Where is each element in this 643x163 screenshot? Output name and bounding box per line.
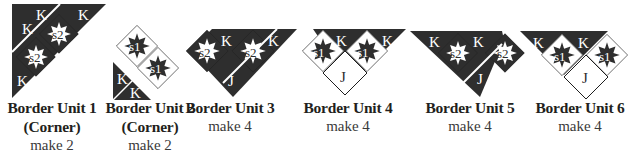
- border-unit-3-caption: Border Unit 3 make 4: [180, 98, 280, 135]
- border-unit-5-diagram: K K s2 s2 J: [410, 0, 530, 100]
- piece-label-K: K: [473, 34, 484, 50]
- piece-label-K: K: [117, 71, 128, 87]
- piece-label-s2: s2: [497, 46, 509, 61]
- piece-label-K: K: [429, 34, 440, 50]
- border-unit-6: K K s1 s1 J Border Unit 6 make 4: [520, 0, 643, 100]
- piece-label-J: J: [582, 70, 588, 86]
- unit-title: Border Unit 6: [525, 98, 635, 117]
- piece-label-K: K: [336, 33, 347, 49]
- unit-subtitle: (Corner): [2, 117, 102, 136]
- piece-label-K: K: [78, 7, 89, 23]
- piece-label-s2: s2: [29, 50, 41, 65]
- piece-label-K: K: [221, 33, 232, 49]
- piece-label-K: K: [268, 33, 279, 49]
- piece-label-s1: s1: [129, 39, 141, 54]
- border-unit-6-caption: Border Unit 6 make 4: [525, 98, 635, 135]
- piece-label-s2: s2: [245, 45, 257, 60]
- piece-label-s2: s2: [52, 27, 64, 42]
- border-unit-6-diagram: K K s1 s1 J: [520, 0, 643, 100]
- border-unit-1-caption: Border Unit 1 (Corner) make 2: [2, 98, 102, 154]
- unit-make-count: make 4: [298, 117, 398, 135]
- piece-label-K: K: [382, 33, 393, 49]
- piece-label-K: K: [36, 7, 47, 23]
- piece-label-K: K: [17, 73, 28, 89]
- border-unit-3-diagram: K K s2 s2 J: [185, 0, 305, 100]
- unit-title: Border Unit 4: [298, 98, 398, 117]
- piece-label-K: K: [22, 21, 33, 37]
- unit-title: Border Unit 1: [2, 98, 102, 117]
- piece-label-s1: s1: [150, 61, 162, 76]
- border-unit-5: K K s2 s2 J Border Unit 5 make 4: [410, 0, 530, 100]
- unit-make-count: make 4: [180, 117, 280, 135]
- unit-title: Border Unit 5: [420, 98, 520, 117]
- piece-label-K: K: [578, 35, 589, 51]
- piece-label-s1: s1: [554, 49, 566, 64]
- piece-label-s2: s2: [199, 45, 211, 60]
- piece-label-K: K: [533, 35, 544, 51]
- piece-label-J: J: [477, 71, 483, 87]
- unit-make-count: make 2: [2, 136, 102, 154]
- piece-label-s1: s1: [313, 45, 325, 60]
- piece-label-s1: s1: [599, 49, 611, 64]
- border-unit-4-diagram: K K s1 s1 J: [305, 0, 415, 100]
- piece-label-s2: s2: [450, 46, 462, 61]
- piece-label-J: J: [340, 69, 346, 85]
- border-unit-4: K K s1 s1 J Border Unit 4 make 4: [305, 0, 415, 100]
- unit-make-count: make 4: [525, 117, 635, 135]
- piece-label-J: J: [228, 73, 234, 89]
- border-unit-4-caption: Border Unit 4 make 4: [298, 98, 398, 135]
- piece-label-s1: s1: [357, 45, 369, 60]
- border-unit-5-caption: Border Unit 5 make 4: [420, 98, 520, 135]
- border-unit-3: K K s2 s2 J Border Unit 3 make 4: [185, 0, 305, 100]
- unit-make-count: make 4: [420, 117, 520, 135]
- unit-title: Border Unit 3: [180, 98, 280, 117]
- unit-make-count: make 2: [105, 136, 195, 154]
